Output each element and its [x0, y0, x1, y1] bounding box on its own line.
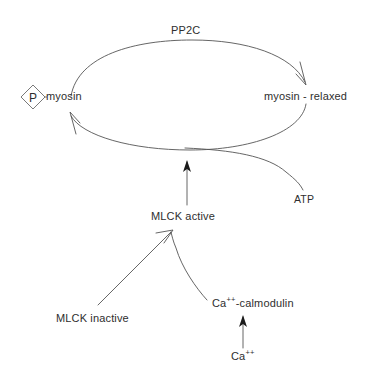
phosphate-group: P: [19, 83, 47, 111]
curve-calmodulin-activation: [171, 232, 207, 300]
arrow-dephosphorylation-pp2c: [71, 40, 305, 96]
label-calcium-ion: Ca++: [231, 351, 255, 362]
ca-calmodulin-prefix: Ca: [212, 297, 226, 309]
calcium-charge: ++: [245, 348, 254, 357]
label-ca-calmodulin: Ca++-calmodulin: [212, 298, 294, 309]
calcium-prefix: Ca: [231, 350, 245, 362]
arrowhead-bottom-arc: [70, 112, 80, 134]
pathway-diagram: P PP2C myosin myosin - relaxed ATP MLCK …: [0, 0, 369, 375]
ca-calmodulin-suffix: -calmodulin: [236, 297, 294, 309]
curve-atp-release: [185, 148, 303, 190]
label-mlck-active: MLCK active: [151, 211, 215, 222]
label-mlck-inactive: MLCK inactive: [56, 313, 129, 324]
phosphate-label: P: [29, 91, 37, 105]
label-atp: ATP: [294, 194, 314, 205]
ca-calmodulin-charge: ++: [226, 295, 235, 304]
arrow-phosphorylation-return: [71, 104, 306, 150]
label-myosin-phosphorylated: myosin: [46, 91, 82, 102]
label-pp2c: PP2C: [171, 25, 200, 36]
label-myosin-relaxed: myosin - relaxed: [264, 91, 347, 102]
phosphate-diamond-icon: P: [19, 83, 47, 111]
arrow-mlck-activation-shaft: [98, 232, 171, 305]
